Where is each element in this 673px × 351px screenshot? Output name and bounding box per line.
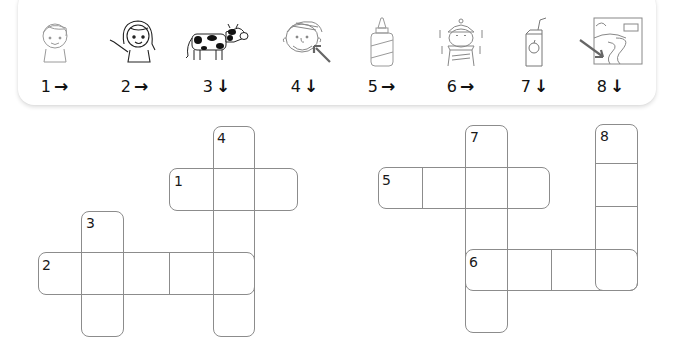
arrow-right-icon: →	[54, 76, 69, 96]
face-arrow-mouth-icon	[270, 16, 340, 68]
clue-label: 7↓	[500, 76, 570, 96]
clue-8: 8↓	[576, 10, 646, 108]
arrow-down-icon: ↓	[216, 76, 231, 96]
cell-1-3[interactable]	[255, 168, 297, 211]
clue-label: 5→	[347, 76, 417, 96]
word-number-5: 5	[382, 173, 391, 187]
clue-3: 3↓	[182, 10, 252, 108]
river-picture-icon	[576, 16, 646, 68]
cell-4-5[interactable]	[213, 295, 255, 336]
boy-icon	[20, 16, 90, 68]
clue-7: 7↓	[500, 10, 570, 108]
arrow-right-icon: →	[381, 76, 396, 96]
clue-label: 8↓	[576, 76, 646, 96]
cell-8-2[interactable]	[595, 164, 638, 206]
clue-1: 1→	[20, 10, 90, 108]
cow-icon	[182, 16, 252, 68]
cell-3-3[interactable]	[81, 295, 124, 336]
clue-label: 3↓	[182, 76, 252, 96]
clue-label: 2→	[100, 76, 170, 96]
glue-bottle-icon	[347, 16, 417, 68]
cell-2-3[interactable]	[124, 252, 169, 295]
arrow-down-icon: ↓	[304, 76, 319, 96]
clue-4: 4↓	[270, 10, 340, 108]
cell-6-2[interactable]	[508, 249, 551, 291]
cell-5-4[interactable]	[508, 167, 550, 209]
cell-1-2[interactable]	[213, 168, 255, 211]
cell-2-5[interactable]	[213, 252, 255, 295]
arrow-right-icon: →	[134, 76, 149, 96]
arrow-down-icon: ↓	[534, 76, 549, 96]
cell-2-4[interactable]	[169, 252, 213, 295]
juice-box-icon	[500, 16, 570, 68]
clue-2: 2→	[100, 10, 170, 108]
cell-2-2[interactable]	[81, 252, 124, 295]
cell-4-3[interactable]	[213, 211, 255, 252]
word-number-4: 4	[217, 131, 226, 145]
cell-7-5[interactable]	[465, 291, 508, 333]
word-number-7: 7	[470, 130, 479, 144]
arrow-right-icon: →	[460, 76, 475, 96]
clue-label: 1→	[20, 76, 90, 96]
clue-label: 4↓	[270, 76, 340, 96]
cell-6-4[interactable]	[595, 249, 638, 291]
clue-5: 5→	[347, 10, 417, 108]
word-number-8: 8	[600, 129, 609, 143]
word-number-1: 1	[174, 174, 183, 188]
cell-6-3[interactable]	[551, 249, 595, 291]
clue-6: 6→	[426, 10, 496, 108]
cell-5-3[interactable]	[465, 167, 508, 209]
cell-7-3[interactable]	[465, 209, 508, 249]
cell-5-2[interactable]	[422, 167, 465, 209]
word-number-6: 6	[469, 255, 478, 269]
word-number-2: 2	[42, 258, 51, 272]
clue-label: 6→	[426, 76, 496, 96]
girl-pointing-icon	[100, 16, 170, 68]
word-number-3: 3	[86, 216, 95, 230]
arrow-down-icon: ↓	[610, 76, 625, 96]
cell-8-3[interactable]	[595, 207, 638, 249]
cold-boy-icon	[426, 16, 496, 68]
